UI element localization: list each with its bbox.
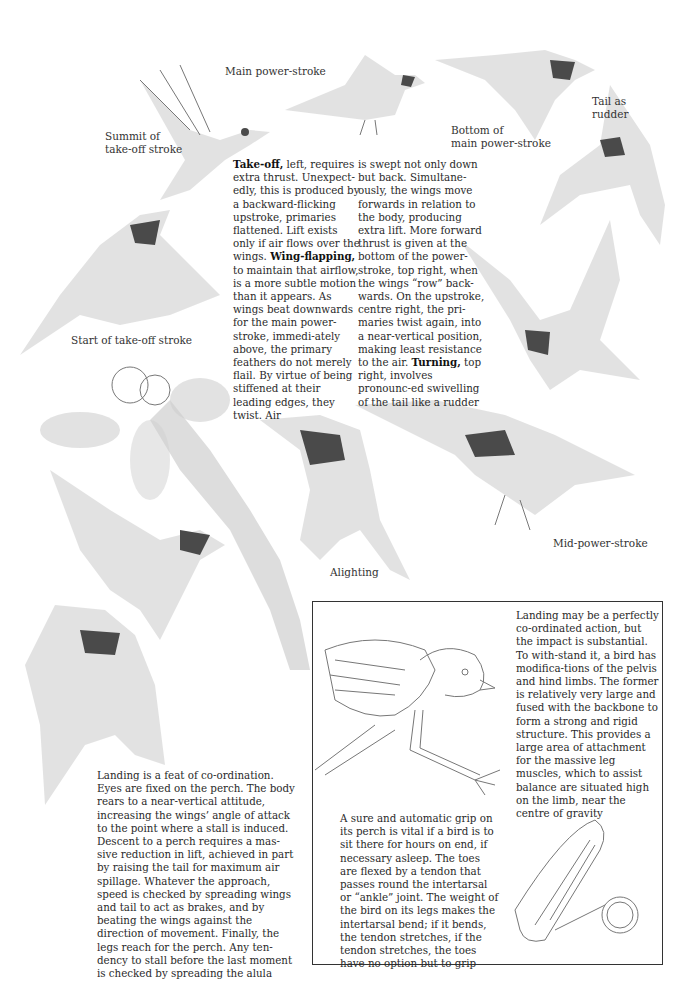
label-bottom-main-power-stroke: Bottom of main power-stroke <box>451 124 551 150</box>
perch-grip-text: A sure and automatic grip on its perch i… <box>340 812 500 970</box>
label-mid-power-stroke: Mid-power-stroke <box>553 537 648 550</box>
label-summit-take-off: Summit of take-off stroke <box>105 130 182 156</box>
bird-upstroke-illustration <box>460 220 640 410</box>
label-main-power-stroke: Main power-stroke <box>225 65 326 78</box>
flight-text-column-2: is swept not only down but back. Simulta… <box>358 158 486 409</box>
pelvis-impact-text: Landing may be a perfectly co-ordinated … <box>516 609 661 820</box>
label-alighting: Alighting <box>330 566 379 579</box>
label-start-take-off: Start of take-off stroke <box>71 334 192 347</box>
label-tail-as-rudder: Tail as rudder <box>592 95 628 121</box>
wing-flapping-heading: Wing-flapping, <box>270 250 355 262</box>
flight-text-column-1: Take-off, left, requires extra thrust. U… <box>233 158 361 422</box>
landing-text: Landing is a feat of co-ordination. Eyes… <box>97 769 297 980</box>
tendon-foot-diagram <box>505 810 655 960</box>
bird-mid-power-stroke-illustration <box>355 395 635 535</box>
bird-skeleton-diagram <box>315 630 505 790</box>
takeoff-heading: Take-off, <box>233 158 283 170</box>
bird-main-power-stroke-illustration <box>265 45 445 140</box>
turning-heading: Turning, <box>412 356 461 368</box>
bird-start-takeoff-illustration <box>20 205 220 355</box>
